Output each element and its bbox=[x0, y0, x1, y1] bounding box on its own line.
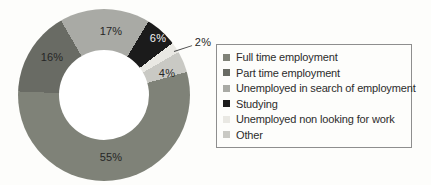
slice-label-full-time: 55% bbox=[100, 151, 123, 163]
donut-hole bbox=[59, 50, 149, 140]
legend-label-studying: Studying bbox=[236, 98, 278, 110]
legend-marker-studying bbox=[223, 100, 230, 107]
legend-item-studying: Studying bbox=[223, 97, 408, 111]
legend-marker-part-time bbox=[223, 69, 230, 76]
legend-item-full-time: Full time employment bbox=[223, 50, 408, 64]
legend-label-other: Other bbox=[236, 129, 263, 141]
legend-marker-full-time bbox=[223, 54, 230, 61]
legend-item-unemployed-non-looking: Unemployed non looking for work bbox=[223, 112, 408, 126]
legend-item-part-time: Part time employment bbox=[223, 66, 408, 80]
legend-item-unemployed-search: Unemployed in search of employment bbox=[223, 81, 408, 95]
slice-label-unemployed-non-looking: 2% bbox=[195, 36, 211, 48]
slice-label-studying: 6% bbox=[150, 32, 166, 44]
legend-marker-unemployed-search bbox=[223, 85, 230, 92]
legend-marker-other bbox=[223, 131, 230, 138]
legend-marker-unemployed-non-looking bbox=[223, 116, 230, 123]
legend-label-unemployed-search: Unemployed in search of employment bbox=[236, 82, 416, 94]
slice-label-part-time: 16% bbox=[41, 51, 64, 63]
legend-label-full-time: Full time employment bbox=[236, 51, 338, 63]
legend-label-unemployed-non-looking: Unemployed non looking for work bbox=[236, 113, 395, 125]
legend-label-part-time: Part time employment bbox=[236, 67, 340, 79]
legend: Full time employment Part time employmen… bbox=[216, 44, 412, 148]
employment-status-donut-figure: 17% 6% 2% 4% 55% 16% Full time employmen… bbox=[0, 0, 431, 185]
slice-label-other: 4% bbox=[159, 67, 175, 79]
slice-label-unemployed-search: 17% bbox=[100, 25, 123, 37]
legend-item-other: Other bbox=[223, 128, 408, 142]
